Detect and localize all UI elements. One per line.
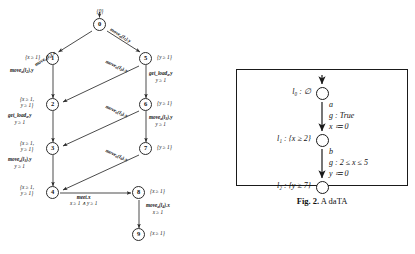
location-node-l2[interactable]: [316, 181, 329, 194]
node-label: 3: [51, 145, 54, 152]
invariant-node-7: {y ≥ 1}: [157, 144, 172, 150]
node-label: 8: [137, 189, 140, 196]
invariant-node-5: {y ≥ 1}: [157, 54, 172, 60]
node-label: 5: [144, 55, 147, 62]
location-node-l0[interactable]: [316, 87, 329, 100]
transition-action-b: b: [329, 147, 368, 158]
location-label-l2: l₂ : {y ≥ 7}: [241, 181, 311, 190]
node-label: 7: [144, 145, 147, 152]
invariant-node-1: {x ≥ 1}: [6, 54, 40, 60]
edge-label-3-4: movea(l3).yy ≥ 1: [8, 156, 31, 169]
edge-label-8-9: movea(l4).xx ≥ 1: [146, 202, 170, 215]
left-graph-edges: [0, 0, 225, 254]
node-label: 2: [51, 101, 54, 108]
invariant-node-3: {x ≥ 1,y ≥ 1}: [12, 140, 42, 153]
transition-guard-b: g : 2 ≤ x ≤ 5: [329, 158, 368, 169]
location-node-l1[interactable]: [316, 134, 329, 147]
location-label-l1: l₁ : {x ≥ 2}: [241, 134, 311, 143]
edge-label-5-6: get_loada.yy ≥ 1: [149, 70, 173, 83]
edge-label-6-7: movea(l3).yy ≥ 1: [149, 114, 172, 127]
graph-node-5[interactable]: 5: [139, 52, 152, 65]
node-label: 6: [144, 101, 147, 108]
graph-node-4[interactable]: 4: [46, 186, 59, 199]
edge-label-4-8: meet.xx ≥ 1 ∧ y ≥ 1: [70, 194, 97, 206]
figure-caption-prefix: Fig. 2.: [297, 196, 319, 206]
transition-reset-a: x ≔ 0: [329, 122, 354, 133]
edge-label-2-3: get_loada.yy ≥ 1: [8, 112, 32, 125]
graph-node-7[interactable]: 7: [139, 142, 152, 155]
graph-node-3[interactable]: 3: [46, 142, 59, 155]
transition-label-a: a g : True x ≔ 0: [329, 100, 354, 132]
node-label: 9: [137, 231, 140, 238]
node-label: 0: [98, 21, 101, 28]
invariant-node-2: {x ≥ 1,y ≥ 1}: [12, 96, 42, 109]
transition-action-a: a: [329, 100, 354, 111]
node-label: 4: [51, 189, 54, 196]
left-state-graph: 0 1 2 3 4 5 6 7 8 9 {0} {x ≥ 1} {x ≥ 1,y…: [0, 0, 225, 254]
transition-label-b: b g : 2 ≤ x ≤ 5 y ≔ 0: [329, 147, 368, 179]
invariant-node-0: {0}: [86, 8, 114, 14]
invariant-node-9: {x ≥ 1}: [150, 230, 165, 236]
invariant-node-4: {x ≥ 1,y ≥ 1}: [12, 184, 42, 197]
location-label-l0: l₀ : ∅: [247, 87, 311, 96]
figure-caption: Fig. 2. A daTA: [236, 196, 408, 206]
invariant-node-6: {y ≥ 1}: [157, 100, 172, 106]
edge-label-1-2: movea(l2).y: [10, 67, 33, 74]
invariant-node-8: {x ≥ 1}: [150, 188, 165, 194]
transition-reset-b: y ≔ 0: [329, 169, 368, 180]
figure-root: 0 1 2 3 4 5 6 7 8 9 {0} {x ≥ 1} {x ≥ 1,y…: [0, 0, 415, 254]
graph-node-2[interactable]: 2: [46, 98, 59, 111]
figure-caption-text: A daTA: [321, 196, 347, 206]
data-ta-panel: l₀ : ∅ l₁ : {x ≥ 2} l₂ : {y ≥ 7} a g : T…: [236, 69, 408, 186]
graph-node-8[interactable]: 8: [132, 186, 145, 199]
transition-guard-a: g : True: [329, 111, 354, 122]
graph-node-9[interactable]: 9: [132, 228, 145, 241]
graph-node-6[interactable]: 6: [139, 98, 152, 111]
graph-node-0[interactable]: 0: [93, 18, 106, 31]
